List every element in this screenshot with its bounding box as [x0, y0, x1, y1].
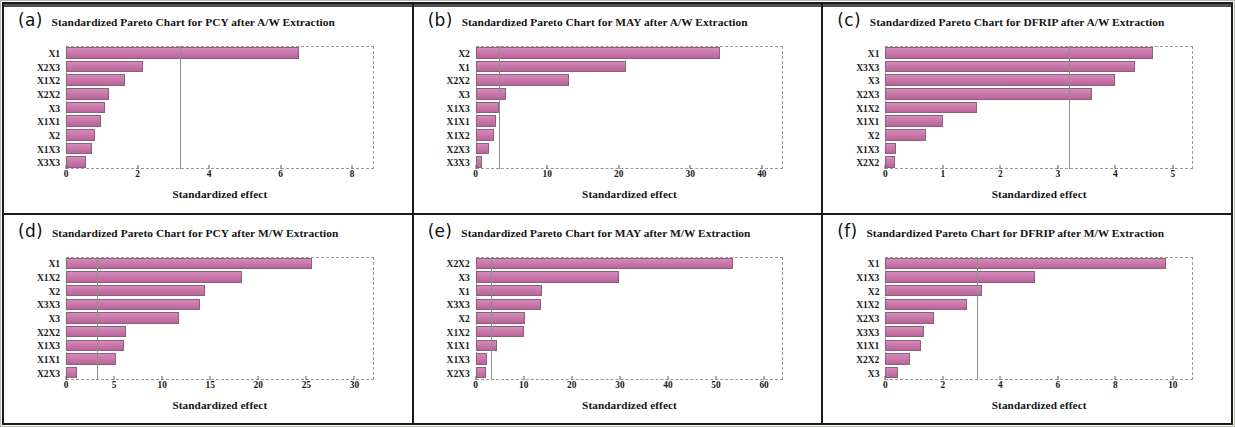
bar-series: X2X2X3X1X3X3X2X1X2X1X1X1X3X2X3 [476, 257, 784, 380]
bar-row: X1X3 [476, 101, 784, 115]
x-axis: 0102030405060 [476, 380, 784, 396]
x-axis: 010203040 [476, 169, 784, 185]
category-label: X3X3 [447, 299, 470, 310]
bar-row: X1X3 [66, 142, 374, 156]
bar [885, 102, 977, 113]
chart-panel: (b)Standardized Pareto Chart for MAY aft… [412, 2, 824, 215]
category-label: X2X2 [447, 75, 470, 86]
bar-row: X1X2 [476, 325, 784, 339]
x-tick-label: 25 [302, 380, 311, 390]
bar [885, 285, 981, 296]
x-axis-title: Standardized effect [885, 188, 1193, 200]
bar-row: X2X3 [885, 87, 1193, 101]
x-axis-title: Standardized effect [476, 399, 784, 411]
bar-row: X2X2 [885, 155, 1193, 169]
bar-row: X3 [885, 73, 1193, 87]
bar [885, 326, 924, 337]
bar [885, 47, 1152, 58]
bar [66, 47, 299, 58]
panel-header: (a)Standardized Pareto Chart for PCY aft… [4, 12, 412, 29]
x-tick-label: 0 [64, 169, 69, 179]
x-tick-label: 5 [1171, 169, 1176, 179]
bar-row: X2X2 [476, 73, 784, 87]
category-label: X3X3 [37, 299, 60, 310]
category-label: X1X1 [447, 116, 470, 127]
bar-row: X1X1 [476, 114, 784, 128]
category-label: X2X3 [37, 61, 60, 72]
bar [476, 353, 488, 364]
category-label: X2X2 [856, 354, 879, 365]
bar-row: X3X3 [885, 60, 1193, 74]
bar-row: X2 [885, 128, 1193, 142]
x-tick-label: 30 [686, 169, 695, 179]
bar-row: X2 [476, 311, 784, 325]
bar-row: X1X2 [66, 73, 374, 87]
x-axis: 051015202530 [66, 380, 374, 396]
plot-canvas: X2X2X3X1X3X3X2X1X2X1X1X1X3X2X3 [476, 257, 784, 380]
x-axis: 02468 [66, 169, 374, 185]
category-label: X3 [458, 272, 470, 283]
panel-title: Standardized Pareto Chart for PCY after … [52, 228, 338, 239]
significance-reference-line [97, 257, 98, 380]
bar [66, 299, 200, 310]
category-label: X1X3 [856, 143, 879, 154]
bar [885, 115, 943, 126]
panel-tag: (b) [428, 12, 453, 29]
page-edge-artifact [4, 4, 412, 7]
bar-row: X1 [66, 257, 374, 271]
x-tick-label: 20 [614, 169, 623, 179]
x-tick-label: 0 [64, 380, 69, 390]
chart-panel: (e)Standardized Pareto Chart for MAY aft… [412, 213, 824, 426]
x-axis-title: Standardized effect [66, 188, 374, 200]
bar-row: X1X3 [476, 352, 784, 366]
category-label: X1 [458, 61, 470, 72]
bar-series: X1X2X3X1X2X2X2X3X1X1X2X1X3X3X3 [66, 46, 374, 169]
bar-row: X2X3 [476, 366, 784, 380]
bar [885, 129, 925, 140]
bar-row: X3 [66, 101, 374, 115]
bar [885, 258, 1165, 269]
plot-canvas: X2X1X2X2X3X1X3X1X1X1X2X2X3X3X3 [476, 46, 784, 169]
category-label: X2 [458, 47, 470, 58]
bar [476, 285, 543, 296]
category-label: X2 [868, 285, 880, 296]
bar-row: X2X3 [66, 60, 374, 74]
x-axis: 012345 [885, 169, 1193, 185]
x-tick-label: 20 [254, 380, 263, 390]
bar-row: X1 [66, 46, 374, 60]
bar [476, 129, 495, 140]
category-label: X1X3 [447, 102, 470, 113]
bar [476, 88, 506, 99]
category-label: X1 [48, 258, 60, 269]
significance-reference-line [491, 257, 492, 380]
category-label: X3 [868, 75, 880, 86]
chart-panel: (d)Standardized Pareto Chart for PCY aft… [2, 213, 414, 426]
x-axis: 0246810 [885, 380, 1193, 396]
panel-tag: (e) [428, 223, 453, 240]
plot-area: X1X1X3X2X1X2X2X3X3X3X1X1X2X2X30246810Sta… [823, 249, 1231, 424]
x-tick-label: 0 [883, 380, 888, 390]
bar [66, 88, 109, 99]
bar-row: X2 [66, 128, 374, 142]
x-tick-label: 2 [998, 169, 1003, 179]
bar-row: X3X3 [66, 155, 374, 169]
x-tick-label: 2 [940, 380, 945, 390]
bar [476, 143, 489, 154]
bar [66, 102, 105, 113]
panel-title: Standardized Pareto Chart for MAY after … [462, 17, 748, 28]
x-tick-label: 8 [1113, 380, 1118, 390]
bar-row: X3 [476, 87, 784, 101]
bar-row: X1X3 [885, 270, 1193, 284]
category-label: X1X1 [37, 116, 60, 127]
bar [885, 353, 909, 364]
category-label: X1X1 [856, 116, 879, 127]
bar [66, 61, 143, 72]
category-label: X3X3 [856, 61, 879, 72]
bar [885, 61, 1135, 72]
bar [476, 312, 525, 323]
bar-row: X1X2 [885, 298, 1193, 312]
category-label: X2X3 [447, 143, 470, 154]
x-tick-label: 2 [135, 169, 140, 179]
x-tick-label: 0 [473, 380, 478, 390]
bar-row: X3X3 [476, 298, 784, 312]
